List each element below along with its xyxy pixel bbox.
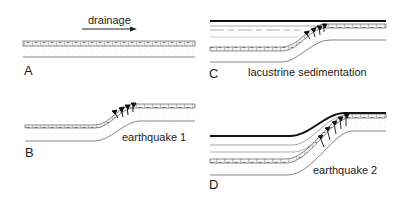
caption-earthquake-1: earthquake 1 (122, 132, 186, 143)
sand-layer (210, 28, 386, 62)
panel-a (23, 27, 195, 58)
panel-letter-d: D (209, 178, 218, 191)
drainage-label: drainage (88, 15, 131, 26)
panel-letter-c: C (209, 67, 218, 80)
caption-lacustrine-sedimentation: lacustrine sedimentation (248, 67, 367, 78)
drainage-arrow-icon (82, 27, 137, 32)
sand-layer (23, 46, 195, 57)
panel-c (210, 21, 386, 62)
panel-letter-b: B (25, 146, 34, 159)
caption-earthquake-2: earthquake 2 (313, 165, 377, 176)
panel-letter-a: A (24, 64, 33, 77)
marker-bed (23, 41, 195, 46)
